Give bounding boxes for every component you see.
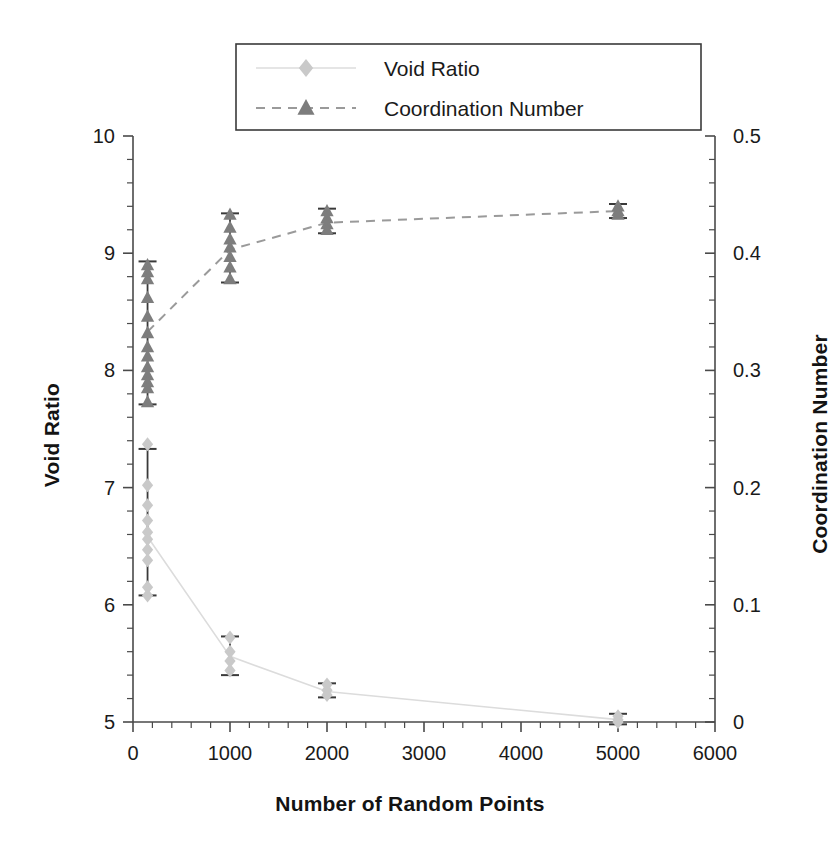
x-tick-label: 5000 [596, 742, 641, 764]
chart-figure: Void RatioCoordination Number 567891000.… [0, 0, 831, 841]
y-tick-label-left: 6 [104, 594, 115, 616]
chart-legend: Void RatioCoordination Number [236, 44, 701, 130]
y-tick-label-left: 9 [104, 242, 115, 264]
series-line [148, 211, 618, 332]
data-point-triangle [141, 309, 154, 321]
data-point-diamond [142, 498, 153, 512]
chart-series [139, 199, 627, 729]
legend-label: Void Ratio [384, 57, 480, 80]
data-point-triangle [223, 272, 236, 284]
y-axis-label-right: Coordination Number [808, 324, 831, 564]
data-point-triangle [141, 395, 154, 407]
x-tick-label: 0 [127, 742, 138, 764]
series-line [148, 537, 618, 720]
chart-axes [123, 136, 715, 732]
x-axis-label: Number of Random Points [200, 792, 620, 816]
data-point-triangle [141, 291, 154, 303]
scatter-plot-canvas: Void RatioCoordination Number 567891000.… [0, 0, 831, 841]
y-tick-label-right: 0.1 [733, 594, 761, 616]
y-tick-label-right: 0.5 [733, 125, 761, 147]
data-point-diamond [142, 553, 153, 567]
y-tick-label-right: 0.4 [733, 242, 761, 264]
data-point-diamond [142, 478, 153, 492]
x-tick-label: 1000 [208, 742, 253, 764]
data-point-triangle [223, 220, 236, 232]
series-coordination-number [139, 199, 627, 407]
x-tick-label: 3000 [402, 742, 447, 764]
x-tick-label: 4000 [499, 742, 544, 764]
data-point-diamond [142, 588, 153, 602]
y-axis-label-left: Void Ratio [40, 355, 64, 515]
chart-tick-labels: 567891000.10.20.30.40.501000200030004000… [93, 125, 761, 764]
data-point-diamond [224, 631, 235, 645]
y-tick-label-right: 0.2 [733, 477, 761, 499]
legend-label: Coordination Number [384, 97, 584, 120]
data-point-triangle [223, 260, 236, 272]
y-tick-label-left: 10 [93, 125, 115, 147]
y-tick-label-left: 5 [104, 711, 115, 733]
x-tick-label: 6000 [693, 742, 738, 764]
x-tick-label: 2000 [305, 742, 350, 764]
y-tick-label-right: 0.3 [733, 359, 761, 381]
y-tick-label-left: 8 [104, 359, 115, 381]
series-void-ratio [139, 437, 627, 729]
y-tick-label-right: 0 [733, 711, 744, 733]
y-tick-label-left: 7 [104, 477, 115, 499]
